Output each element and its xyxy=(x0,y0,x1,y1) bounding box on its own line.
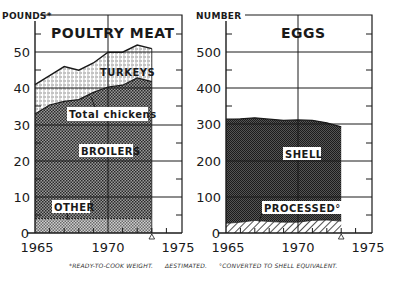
svg-text:0: 0 xyxy=(212,226,220,241)
svg-text:1970: 1970 xyxy=(91,240,124,255)
svg-text:200: 200 xyxy=(196,154,221,169)
svg-text:20: 20 xyxy=(13,154,30,169)
right-x-tick-labels: 1965 1970 1975 xyxy=(211,240,384,255)
svg-text:400: 400 xyxy=(196,81,221,96)
svg-text:500: 500 xyxy=(196,45,221,60)
eggs-chart: NUMBER EGGS 500 400 300 200 100 0 1965 1… xyxy=(195,9,385,255)
other-label: OTHER xyxy=(54,202,95,213)
svg-text:100: 100 xyxy=(196,190,221,205)
left-y-tick-labels: 50 40 30 20 10 0 xyxy=(13,45,30,241)
svg-text:1970: 1970 xyxy=(281,240,314,255)
svg-text:30: 30 xyxy=(13,118,30,133)
svg-text:40: 40 xyxy=(13,81,30,96)
footnote-shell-equivalent: °CONVERTED TO SHELL EQUIVALENT. xyxy=(219,262,338,269)
left-unit-label: POUNDS* xyxy=(2,11,52,21)
charts-canvas: POUNDS* POULTRY MEAT 50 40 30 20 10 0 19… xyxy=(0,0,397,283)
footnotes: *READY-TO-COOK WEIGHT. ΔESTIMATED. °CONV… xyxy=(69,262,338,269)
svg-text:1965: 1965 xyxy=(20,240,53,255)
estimated-marker-icon xyxy=(338,234,344,239)
total-chickens-label: Total chickens xyxy=(69,109,157,120)
eggs-title: EGGS xyxy=(281,25,326,41)
svg-text:300: 300 xyxy=(196,117,221,132)
svg-text:1975: 1975 xyxy=(351,240,384,255)
poultry-title: POULTRY MEAT xyxy=(51,25,175,41)
svg-text:0: 0 xyxy=(21,226,29,241)
right-unit-label: NUMBER xyxy=(196,11,242,21)
left-x-tick-labels: 1965 1970 1975 xyxy=(20,240,194,255)
footnote-estimated: ΔESTIMATED. xyxy=(164,262,207,269)
svg-text:1965: 1965 xyxy=(211,240,244,255)
processed-label: PROCESSED° xyxy=(264,203,341,214)
shell-label: SHELL xyxy=(285,149,323,160)
poultry-meat-chart: POUNDS* POULTRY MEAT 50 40 30 20 10 0 19… xyxy=(0,9,195,255)
right-y-tick-labels: 500 400 300 200 100 0 xyxy=(196,45,221,241)
svg-text:10: 10 xyxy=(13,190,30,205)
svg-text:1975: 1975 xyxy=(161,240,194,255)
estimated-marker-icon xyxy=(149,234,155,239)
turkeys-label: TURKEYS xyxy=(100,67,155,78)
footnote-ready-to-cook: *READY-TO-COOK WEIGHT. xyxy=(69,262,153,269)
broilers-label: BROILERS xyxy=(81,146,141,157)
svg-text:50: 50 xyxy=(13,45,30,60)
